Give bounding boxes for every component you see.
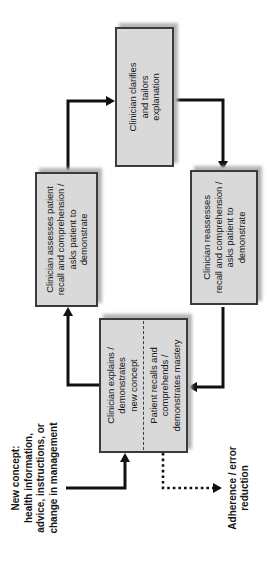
box-explain-and-recall: Clinician explains / demonstrates new co… [99,318,188,453]
label-adherence-error-reduction: Adherence / error reduction [227,418,251,558]
box-clinician-clarifies: Clinician clarifies and tailors explanat… [115,27,174,167]
figure-canvas: Clinician explains / demonstrates new co… [0,0,268,570]
arrow-clarifies-to-reassesses [174,100,228,170]
teach-back-loop-diagram: Clinician explains / demonstrates new co… [0,0,268,570]
arrow-explains-to-assesses [63,307,99,385]
box-clinician-explains: Clinician explains / demonstrates new co… [101,320,143,451]
arrow-assesses-to-clarifies [68,96,115,172]
clinician-clarifies-text: Clinician clarifies and tailors explanat… [127,63,162,132]
arrow-recalls-to-adherence-dotted [163,453,222,493]
patient-recalls-text: Patient recalls and comprehends / demons… [148,340,183,432]
clinician-assesses-text: Clinician assesses patient recall and co… [44,184,90,295]
clinician-explains-text: Clinician explains / demonstrates new co… [105,347,140,424]
box-patient-recalls: Patient recalls and comprehends / demons… [144,320,186,451]
arrow-reassesses-to-recalls [188,307,223,392]
label-new-concept: New concept: health information, advice,… [10,408,60,548]
arrow-new-concept-to-explains [66,453,130,488]
box-clinician-assesses: Clinician assesses patient recall and co… [35,172,98,307]
clinician-reassesses-text: Clinician reassesses recall and comprehe… [201,182,247,293]
box-clinician-reassesses: Clinician reassesses recall and comprehe… [190,170,258,305]
